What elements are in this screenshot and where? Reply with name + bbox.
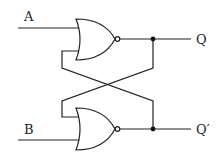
inversion-bubble-top (115, 37, 120, 42)
input-b-label: B (24, 122, 34, 137)
nor-gate-bottom (76, 108, 115, 150)
inversion-bubble-bottom (115, 127, 120, 132)
input-a-label: A (23, 9, 34, 24)
junction-dot-qprime (151, 127, 156, 132)
output-q-label: Q (196, 32, 207, 47)
sr-latch-diagram: A B Q Q′ (0, 0, 220, 158)
junction-dot-q (151, 37, 156, 42)
nor-gate-top (76, 19, 115, 60)
output-qprime-label: Q′ (196, 122, 210, 137)
